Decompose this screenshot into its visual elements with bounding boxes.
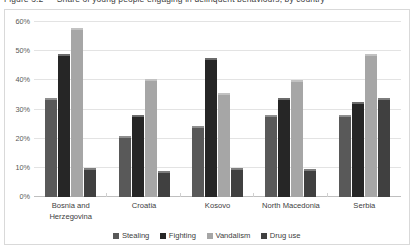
- legend-label: Fighting: [169, 231, 196, 240]
- legend-swatch-icon: [207, 233, 213, 239]
- x-axis-category-label: North Macedonia: [254, 200, 327, 234]
- legend-item-vandalism[interactable]: Vandalism: [207, 231, 250, 240]
- bar-drug-use[interactable]: [378, 98, 390, 197]
- bar-highlight: [231, 168, 243, 170]
- legend-swatch-icon: [113, 233, 119, 239]
- x-axis-label-line: Serbia: [328, 201, 401, 212]
- legend-swatch-icon: [261, 233, 267, 239]
- x-axis-labels: Bosnia andHerzegovinaCroatiaKosovoNorth …: [34, 200, 401, 234]
- bar-stealing[interactable]: [192, 126, 204, 197]
- bar-highlight: [58, 54, 70, 56]
- bar-stealing[interactable]: [265, 115, 277, 197]
- x-axis-label-line: Bosnia and: [34, 201, 107, 212]
- bar-highlight: [71, 28, 83, 30]
- bar-fighting[interactable]: [132, 115, 144, 197]
- bar-highlight: [352, 102, 364, 104]
- bar-vandalism[interactable]: [291, 80, 303, 197]
- bar-stealing[interactable]: [339, 115, 351, 197]
- bar-stealing[interactable]: [45, 98, 57, 197]
- x-axis-category-label: Serbia: [328, 200, 401, 234]
- legend-item-drug-use[interactable]: Drug use: [261, 231, 300, 240]
- bar-drug-use[interactable]: [231, 168, 243, 197]
- figure-caption: Figure 3.2 — Share of young people engag…: [4, 0, 411, 6]
- x-axis-label-line: Herzegovina: [34, 212, 107, 223]
- plot-area: 60%50%40%30%20%10%0%: [34, 22, 401, 197]
- bar-group: [34, 22, 107, 197]
- bar-drug-use[interactable]: [158, 171, 170, 197]
- bar-group: [107, 22, 180, 197]
- chart-container: 60%50%40%30%20%10%0% Bosnia andHerzegovi…: [4, 9, 410, 245]
- bar-highlight: [158, 171, 170, 173]
- legend-swatch-icon: [160, 233, 166, 239]
- y-axis-tick-label: 20%: [15, 133, 30, 142]
- bar-groups: [34, 22, 401, 197]
- bar-fighting[interactable]: [205, 58, 217, 197]
- x-axis-category-label: Croatia: [107, 200, 180, 234]
- bar-drug-use[interactable]: [304, 169, 316, 197]
- bar-group: [254, 22, 327, 197]
- legend-label: Stealing: [122, 231, 149, 240]
- bar-vandalism[interactable]: [71, 28, 83, 197]
- bar-highlight: [192, 126, 204, 128]
- bar-group: [181, 22, 254, 197]
- bar-highlight: [218, 93, 230, 95]
- x-axis-label-line: North Macedonia: [254, 201, 327, 212]
- bar-vandalism[interactable]: [145, 79, 157, 197]
- x-axis-label-line: Kosovo: [181, 201, 254, 212]
- x-axis-label-line: Croatia: [107, 201, 180, 212]
- y-axis-tick-label: 0%: [19, 192, 30, 201]
- bar-highlight: [119, 136, 131, 138]
- bar-highlight: [205, 58, 217, 60]
- legend-item-stealing[interactable]: Stealing: [113, 231, 149, 240]
- bar-fighting[interactable]: [58, 54, 70, 197]
- bar-highlight: [378, 98, 390, 100]
- bar-vandalism[interactable]: [218, 93, 230, 197]
- bar-group: [328, 22, 401, 197]
- legend-item-fighting[interactable]: Fighting: [160, 231, 196, 240]
- bar-highlight: [278, 98, 290, 100]
- bar-highlight: [145, 79, 157, 81]
- bar-highlight: [339, 115, 351, 117]
- x-axis-category-label: Bosnia andHerzegovina: [34, 200, 107, 234]
- bar-drug-use[interactable]: [84, 168, 96, 197]
- bar-highlight: [291, 80, 303, 82]
- bar-highlight: [304, 169, 316, 171]
- y-axis-tick-label: 10%: [15, 162, 30, 171]
- chart-legend: StealingFightingVandalismDrug use: [5, 231, 409, 240]
- y-axis-tick-label: 50%: [15, 46, 30, 55]
- bar-highlight: [132, 115, 144, 117]
- bar-fighting[interactable]: [352, 102, 364, 197]
- legend-label: Drug use: [270, 231, 301, 240]
- bar-vandalism[interactable]: [365, 54, 377, 197]
- bar-fighting[interactable]: [278, 98, 290, 197]
- y-axis-tick-label: 40%: [15, 75, 30, 84]
- bar-stealing[interactable]: [119, 136, 131, 197]
- x-axis-category-label: Kosovo: [181, 200, 254, 234]
- y-axis-tick-label: 60%: [15, 17, 30, 26]
- bar-highlight: [365, 54, 377, 56]
- bar-highlight: [265, 115, 277, 117]
- bar-highlight: [45, 98, 57, 100]
- legend-label: Vandalism: [215, 231, 250, 240]
- y-axis-tick-label: 30%: [15, 104, 30, 113]
- bar-highlight: [84, 168, 96, 170]
